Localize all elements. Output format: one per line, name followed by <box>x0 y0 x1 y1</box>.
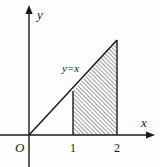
curve-label: y=x <box>61 62 79 74</box>
y-axis-label: y <box>35 7 43 22</box>
math-figure: y x O 1 2 y=x <box>0 0 160 167</box>
origin-label: O <box>15 140 25 155</box>
x-tick-label-1: 1 <box>70 141 76 155</box>
coordinate-plane-diagram: y x O 1 2 y=x <box>0 0 160 167</box>
x-tick-label-2: 2 <box>114 141 120 155</box>
x-axis-label: x <box>140 115 147 130</box>
